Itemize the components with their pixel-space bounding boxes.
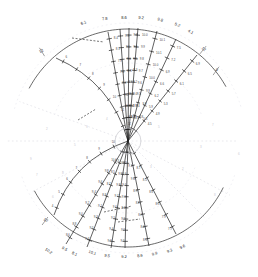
ray-lower-7-curved-tick-2 (100, 152, 102, 156)
dash-helper-mid-left (78, 109, 96, 120)
ray-upper-8-curved-value-2: 11 (121, 108, 124, 112)
ray-lower-3-value-6: 9.6 (113, 205, 117, 209)
ray-lower-6-value-5: 8.1 (155, 202, 159, 206)
ray-lower-1-value-4: 9.6 (98, 180, 102, 184)
bottom-arc-label-7: 9.9 (151, 250, 158, 256)
ray-lower-5-value-3: 9.0 (131, 177, 135, 181)
ray-upper-4-value-8: 9.9 (141, 45, 145, 49)
ray-lower-2-value-4: 8.7 (107, 182, 111, 186)
ghost-value-8: 5 (158, 125, 160, 129)
ray-upper-8-curved-tick-6 (76, 67, 78, 71)
ghost-value-15: 2 (46, 127, 48, 131)
ray-lower-2-value-5: 8.9 (102, 193, 106, 197)
ray-upper-8-curved-tick-3 (107, 98, 110, 100)
ray-upper-1-tick-5 (115, 84, 119, 85)
ray-lower-7-curved-value-2: 9 (98, 147, 100, 151)
ray-upper-1-tick-9 (107, 38, 112, 39)
ray-lower-4-value-2: 9.5 (123, 161, 127, 165)
top-arc-label-5: 5.2 (174, 21, 182, 28)
ray-lower-6: 8.78.58.38.17.97.7 (128, 141, 176, 234)
bottom-arc-label-5: 9.2 (121, 254, 128, 259)
ray-lower-6-path (128, 141, 176, 234)
ray-lower-5-value-6: 8.7 (138, 213, 142, 217)
ray-lower-5-value-2: 9.1 (128, 164, 132, 168)
ghost-arc-lower (21, 176, 234, 253)
ray-upper-1-value-9: 8.4 (114, 36, 118, 40)
top-arc-label-2: 8.6 (121, 15, 128, 20)
bottom-arc-label-8: 9.3 (166, 247, 174, 254)
ray-lower-5-value-7: 8.6 (141, 225, 145, 229)
ghost-value-11: 8 (214, 193, 216, 197)
ghost-ray-upper-left (20, 102, 128, 141)
upper-left-end-label: 12 (38, 47, 45, 54)
ray-lower-6-value-4: 8.3 (149, 190, 153, 194)
ray-upper-8-curved-value-5: 8 (92, 72, 94, 76)
ray-lower-3-value-8: 9.4 (109, 227, 113, 231)
ray-upper-4-value-9: 10.0 (142, 33, 148, 37)
ray-lower-2-value-9: 9.7 (85, 237, 89, 241)
ray-upper-8-curved-value-7: 6 (66, 55, 68, 59)
ray-upper-6-value-6: 6.9 (166, 70, 170, 74)
ray-lower-5-value-5: 8.8 (136, 201, 140, 205)
ray-lower-7-curved-value-7: 4 (52, 204, 54, 208)
ray-upper-6-value-7: 7.2 (171, 58, 175, 62)
ray-lower-7-curved-path (54, 141, 128, 215)
ghost-value-1: 7 (36, 173, 38, 177)
ray-upper-8-curved-value-3: 10 (113, 95, 117, 99)
ray-upper-7-value-4: 5.3 (164, 102, 168, 106)
ray-lower-3-value-4: 9.8 (116, 183, 120, 187)
figure-canvas: 9785643257684392 6.46.87.07.37.67.98.18.… (0, 0, 258, 277)
ray-upper-6-value-8: 7.5 (177, 46, 181, 50)
ray-lower-3-value-9: 9.3 (108, 239, 112, 243)
ray-lower-5-value-4: 8.9 (133, 189, 137, 193)
ray-lower-2-value-2: 8.3 (115, 159, 119, 163)
ray-lower-1-value-3: 9.8 (105, 169, 109, 173)
ray-lower-6-value-3: 8.5 (143, 178, 147, 182)
bottom-arc-label-6: 8.9 (137, 253, 144, 259)
bottom-arc-label-9: 9.6 (179, 243, 187, 250)
ray-lower-7-curved-value-6: 5 (58, 190, 60, 194)
ray-upper-5-value-8: 10.1 (159, 38, 165, 42)
ray-upper-7-value-3: 4.9 (156, 112, 160, 116)
polar-ray-diagram: 9785643257684392 6.46.87.07.37.67.98.18.… (0, 0, 258, 277)
bottom-arc-label-4: 9.5 (104, 253, 111, 259)
ray-lower-1-value-9: 8.6 (66, 233, 70, 237)
ghost-value-0: 9 (30, 157, 32, 161)
ray-upper-5-value-5: 10.0 (149, 76, 155, 80)
bottom-arc (34, 187, 223, 247)
ray-upper-4-value-5: 9.6 (138, 81, 142, 85)
ray-lower-5-value-8: 8.5 (143, 238, 147, 242)
top-arc-label-4: 9.8 (157, 16, 164, 22)
bottom-arc-label-1: 9.5 (61, 245, 69, 253)
ghost-value-10: 6 (238, 152, 240, 156)
ghost-value-2: 8 (62, 171, 64, 175)
top-arc-label-1: 7.8 (101, 15, 108, 21)
ray-lower-1-value-8: 8.8 (72, 222, 76, 226)
bottom-arc-label-2: 8.1 (71, 250, 79, 257)
top-arc-label-6: 4.1 (187, 28, 195, 36)
ray-lower-4-value-4: 9.4 (122, 183, 126, 187)
ray-lower-4-value-9: 9.1 (121, 239, 125, 243)
ray-upper-6-value-5: 6.6 (160, 82, 164, 86)
ghost-value-14: 9 (86, 125, 88, 129)
ray-lower-7-curved-value-3: 8 (86, 156, 88, 160)
ray-upper-7-value-6: 6.1 (180, 82, 184, 86)
ray-lower-2-value-3: 8.5 (111, 170, 115, 174)
ray-layer: 6.46.87.07.37.67.98.18.48.08.28.48.68.89… (52, 28, 200, 248)
ray-upper-7-value-2: 4.5 (148, 122, 152, 126)
ray-upper-7-tick-7 (182, 69, 186, 72)
ray-lower-7-curved-value-5: 6 (66, 177, 68, 181)
ray-lower-5-path (128, 141, 149, 246)
ray-upper-8-curved-path (56, 58, 128, 141)
ray-lower-4-value-3: 9.4 (122, 172, 126, 176)
ghost-value-3: 5 (74, 143, 76, 147)
bottom-arc-label-3: 10.1 (88, 249, 98, 256)
ray-lower-2-value-6: 9.1 (98, 204, 102, 208)
ray-lower-3-value-7: 9.5 (111, 216, 115, 220)
ray-lower-1-value-5: 9.4 (92, 190, 96, 194)
ray-lower-1-value-7: 9.0 (79, 212, 83, 216)
ray-upper-5-value-4: 9.9 (146, 89, 150, 93)
ray-upper-2-value-8: 9.1 (126, 45, 130, 49)
ghost-value-6: 3 (200, 145, 202, 149)
ray-lower-6-value-6: 7.9 (162, 215, 166, 219)
